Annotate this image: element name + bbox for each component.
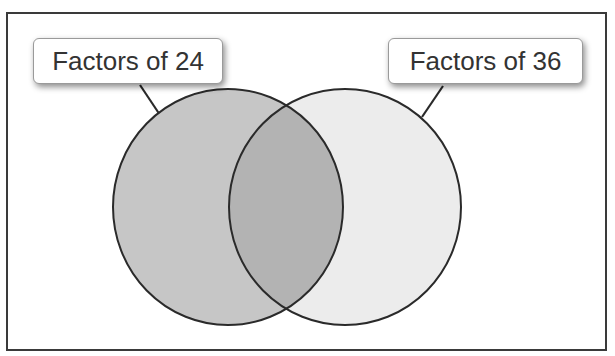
label-factors-of-36: Factors of 36 xyxy=(388,38,583,84)
venn-diagram: Factors of 24 Factors of 36 xyxy=(0,0,615,356)
label-factors-of-24: Factors of 24 xyxy=(33,38,223,84)
